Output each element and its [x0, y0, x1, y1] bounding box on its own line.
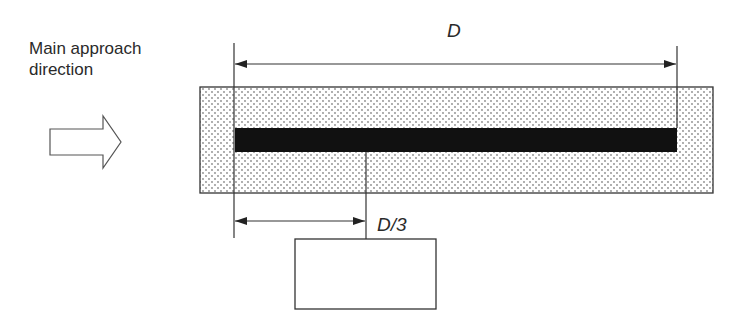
target-box	[295, 239, 436, 309]
solid-bar	[235, 128, 677, 152]
approach-label-line2: direction	[29, 59, 141, 80]
dimension-d-label: D	[447, 20, 461, 42]
approach-label-line1: Main approach	[29, 38, 141, 59]
dimension-d3-label: D/3	[377, 214, 407, 236]
approach-arrow-icon	[50, 116, 121, 168]
approach-direction-label: Main approach direction	[29, 38, 141, 80]
